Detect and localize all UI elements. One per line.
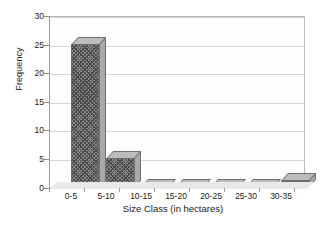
y-tick-label-10: 10 <box>20 125 44 135</box>
y-tick-mark-10 <box>44 130 49 131</box>
bar-front-face <box>281 181 309 187</box>
y-tick-mark-20 <box>44 73 49 74</box>
bar-top-face <box>176 179 211 187</box>
bar-chart: Frequency <box>0 0 336 227</box>
y-tick-label-0: 0 <box>20 183 44 193</box>
y-tick-label-30: 30 <box>20 11 44 21</box>
y-tick-mark-25 <box>44 45 49 46</box>
bar-30-35 <box>281 174 309 187</box>
bar-top-face <box>141 179 176 187</box>
gridline-30 <box>50 17 304 18</box>
x-tick-label-30-35: 30-35 <box>258 191 304 201</box>
y-tick-mark-30 <box>44 16 49 17</box>
bar-0-5 <box>71 38 99 187</box>
y-tick-label-20: 20 <box>20 68 44 78</box>
bar-front-face <box>71 44 99 187</box>
y-tick-mark-5 <box>44 159 49 160</box>
y-tick-mark-15 <box>44 102 49 103</box>
bar-top-face <box>211 179 246 187</box>
bar-side-face <box>99 38 106 187</box>
bar-20-25 <box>211 180 239 187</box>
bar-top-face <box>246 179 281 187</box>
x-axis-title: Size Class (in hectares) <box>48 203 298 214</box>
y-tick-label-25: 25 <box>20 40 44 50</box>
bar-15-20 <box>176 180 204 187</box>
bar-5-10 <box>106 152 134 187</box>
bar-side-face <box>134 152 141 187</box>
bar-10-15 <box>141 180 169 187</box>
x-axis-line <box>49 188 306 189</box>
y-tick-label-5: 5 <box>20 154 44 164</box>
bar-front-face <box>106 158 134 187</box>
y-axis-line <box>49 16 50 189</box>
plot-area <box>49 16 305 188</box>
bar-25-30 <box>246 180 274 187</box>
y-tick-label-15: 15 <box>20 97 44 107</box>
